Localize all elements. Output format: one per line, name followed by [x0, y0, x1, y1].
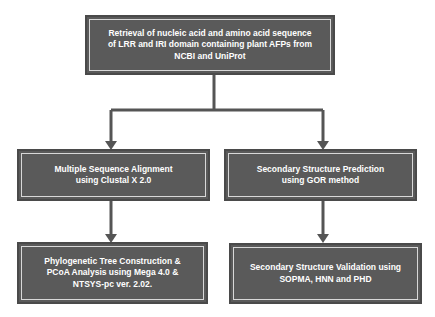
node-retrieval-label: Retrieval of nucleic acid and amino acid… — [89, 19, 331, 71]
node-ssv: Secondary Structure Validation using SOP… — [229, 243, 422, 304]
node-phylo-label: Phylogenetic Tree Construction & PCoA An… — [21, 246, 204, 300]
node-phylo: Phylogenetic Tree Construction & PCoA An… — [17, 242, 208, 304]
node-msa: Multiple Sequence Alignment using Clusta… — [17, 149, 210, 201]
node-ssp: Secondary Structure Prediction using GOR… — [224, 149, 417, 201]
arrowhead-down-icon — [317, 234, 329, 243]
node-msa-label: Multiple Sequence Alignment using Clusta… — [21, 153, 206, 197]
node-ssv-label: Secondary Structure Validation using SOP… — [233, 247, 418, 300]
node-retrieval: Retrieval of nucleic acid and amino acid… — [85, 15, 335, 75]
node-ssp-label: Secondary Structure Prediction using GOR… — [228, 153, 413, 197]
